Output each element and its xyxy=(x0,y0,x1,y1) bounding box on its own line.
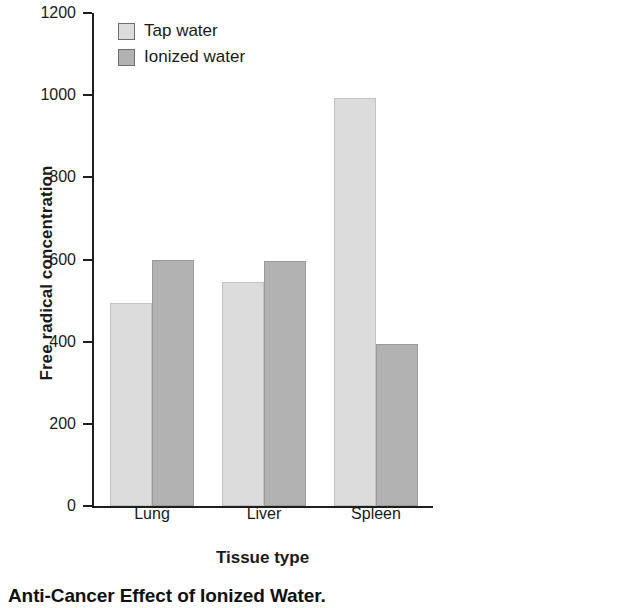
bar-liver-tap-water xyxy=(222,282,264,506)
y-tick: 600 xyxy=(83,259,92,261)
bar-lung-tap-water xyxy=(110,303,152,506)
y-tick: 800 xyxy=(83,176,92,178)
y-tick-label: 0 xyxy=(67,497,76,515)
legend-swatch-ionized-water-icon xyxy=(118,49,135,66)
y-tick-label: 800 xyxy=(49,168,76,186)
y-tick-label: 600 xyxy=(49,251,76,269)
y-tick: 200 xyxy=(83,423,92,425)
y-tick: 1200 xyxy=(83,12,92,14)
x-tick-label-liver: Liver xyxy=(222,505,306,523)
y-tick-label: 1000 xyxy=(40,86,76,104)
y-tick: 0 xyxy=(83,505,92,507)
y-tick-label: 200 xyxy=(49,415,76,433)
y-tick: 1000 xyxy=(83,94,92,96)
y-tick: 400 xyxy=(83,341,92,343)
figure-bar-chart: Free radical concentration 0200400600800… xyxy=(0,0,643,608)
legend-label-ionized-water: Ionized water xyxy=(144,47,245,67)
plot-area: 020040060080010001200 Tap water Ionized … xyxy=(92,13,433,506)
bar-group xyxy=(92,13,433,506)
bar-lung-ionized-water xyxy=(152,260,194,507)
legend-swatch-tap-water-icon xyxy=(118,23,135,40)
bar-spleen-ionized-water xyxy=(376,344,418,506)
legend-item-ionized-water: Ionized water xyxy=(118,44,245,70)
y-axis-title: Free radical concentration xyxy=(37,108,57,438)
bar-spleen-tap-water xyxy=(334,98,376,506)
legend-label-tap-water: Tap water xyxy=(144,21,218,41)
y-tick-label: 400 xyxy=(49,333,76,351)
bar-liver-ionized-water xyxy=(264,261,306,506)
x-tick-label-spleen: Spleen xyxy=(334,505,418,523)
x-tick-label-lung: Lung xyxy=(110,505,194,523)
x-axis-title: Tissue type xyxy=(92,548,433,568)
y-tick-label: 1200 xyxy=(40,4,76,22)
figure-caption: Anti-Cancer Effect of Ionized Water. xyxy=(8,585,326,607)
legend-item-tap-water: Tap water xyxy=(118,18,245,44)
legend: Tap water Ionized water xyxy=(118,18,245,70)
